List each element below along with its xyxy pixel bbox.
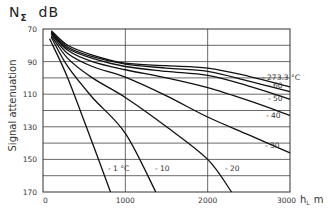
attenuation-chart: - 273.3 °C- 60- 50- 40- 30- 20- 10- 1 °C…	[0, 0, 328, 215]
y-tick-label: 90	[27, 58, 37, 67]
curve-20	[51, 36, 231, 192]
x-axis-label: hLm	[300, 194, 323, 206]
x-tick-label: 2000	[198, 196, 217, 205]
y-tick-label: 110	[23, 90, 38, 99]
curves	[50, 31, 290, 192]
curve-label: - 50	[268, 94, 283, 103]
curve-label: - 40	[266, 111, 281, 120]
curve-label: - 60	[268, 81, 283, 90]
curve-label: - 10	[155, 164, 170, 173]
curve-30	[51, 34, 290, 153]
y-tick-label: 150	[23, 155, 38, 164]
x-tick-label: 0	[43, 196, 48, 205]
y-tick-label: 70	[27, 25, 37, 34]
curve-label: - 1 °C	[108, 164, 129, 173]
y-tick-label: 170	[23, 188, 38, 197]
curve-label: - 30	[265, 141, 280, 150]
curve-label: - 20	[225, 164, 240, 173]
x-tick-label: 3000	[277, 196, 296, 205]
y-tick-label: 130	[23, 123, 38, 132]
curve-labels: - 273.3 °C- 60- 50- 40- 30- 20- 10- 1 °C	[108, 73, 300, 173]
x-tick-label: 1000	[116, 196, 135, 205]
